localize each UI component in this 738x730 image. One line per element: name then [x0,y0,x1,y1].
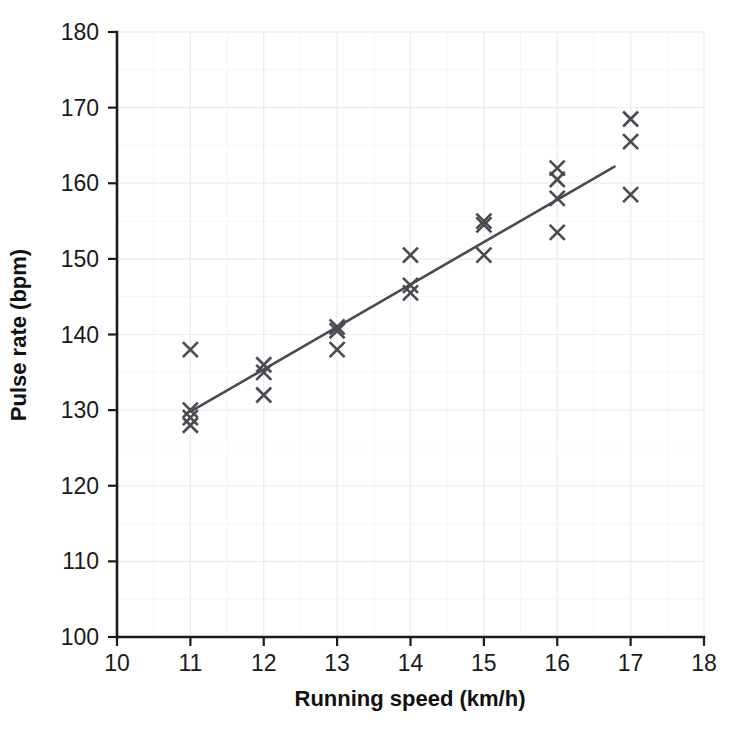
x-tick-label: 16 [544,650,570,676]
y-tick-label: 150 [61,246,99,272]
y-tick-label: 140 [61,322,99,348]
y-tick-label: 180 [61,19,99,45]
scatter-plot-svg: 101112131415161718 100110120130140150160… [0,0,738,730]
x-tick-label: 12 [251,650,277,676]
x-axis-title: Running speed (km/h) [295,686,526,711]
y-tick-label: 160 [61,170,99,196]
y-tick-label: 100 [61,624,99,650]
y-tick-label: 110 [62,548,99,574]
x-tick-label: 10 [104,650,130,676]
y-tick-label: 130 [61,397,99,423]
y-axis-title: Pulse rate (bpm) [6,249,31,421]
x-tick-label: 15 [471,650,497,676]
x-tick-label: 17 [618,650,644,676]
y-tick-label: 170 [61,95,99,121]
x-tick-labels-group: 101112131415161718 [104,650,717,676]
y-tick-labels-group: 100110120130140150160170180 [61,19,99,650]
x-tick-label: 18 [691,650,717,676]
y-tick-label: 120 [61,473,99,499]
chart-container: 101112131415161718 100110120130140150160… [0,0,738,730]
tick-marks-group [108,32,704,646]
grid-major-group [117,32,704,637]
x-tick-label: 14 [398,650,424,676]
x-tick-label: 11 [178,650,202,676]
x-tick-label: 13 [324,650,350,676]
